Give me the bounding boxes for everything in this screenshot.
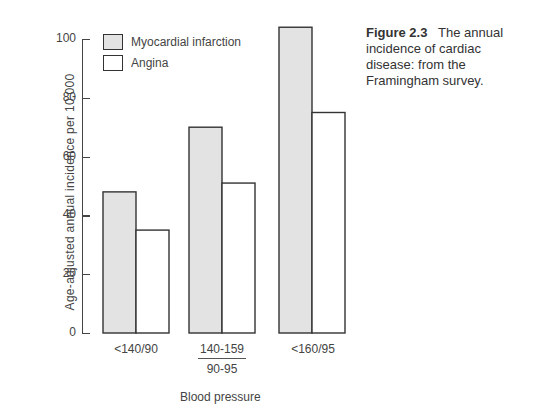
x-label-cat1-top: 140-159 [182,342,262,356]
x-label-cat1-bottom: 90-95 [182,362,262,376]
figure-label: Figure 2.3 [366,25,427,40]
x-label-cat1-divider [198,358,246,359]
x-axis-title: Blood pressure [180,390,261,404]
bar-angina [136,230,169,333]
bar-mi [279,27,312,333]
legend-item-mi: Myocardial infarction [103,34,241,50]
bar-mi [189,127,222,333]
legend-swatch-angina [103,55,123,71]
legend-swatch-mi [103,34,123,50]
legend-label-mi: Myocardial infarction [131,35,241,49]
legend-label-angina: Angina [131,56,168,70]
bar-angina [222,183,255,333]
bar-mi [103,192,136,333]
x-label-cat2: <160/95 [273,342,353,356]
x-label-cat0: <140/90 [96,342,176,356]
figure-caption: Figure 2.3 The annual incidence of cardi… [366,25,531,89]
bar-angina [312,113,345,334]
legend-item-angina: Angina [103,55,168,71]
